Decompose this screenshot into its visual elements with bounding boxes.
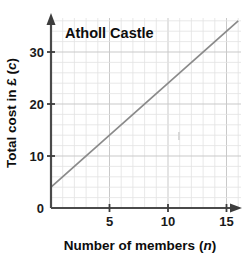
x-tick-label-15: 15: [219, 214, 233, 229]
x-axis-title-text: Number of members: [64, 238, 195, 253]
chart-canvas: 30 20 10 0 5 10 15 Atholl Castle Number …: [0, 0, 245, 258]
line-chart: 30 20 10 0 5 10 15 Atholl Castle Number …: [0, 0, 245, 258]
x-tick-label-5: 5: [106, 214, 113, 229]
y-tick-label-30: 30: [30, 45, 44, 60]
plot-background: [51, 18, 241, 208]
chart-title: Atholl Castle: [65, 25, 154, 41]
y-tick-label-10: 10: [30, 149, 44, 164]
paper-artifact: [178, 132, 180, 140]
y-tick-label-20: 20: [30, 97, 44, 112]
y-tick-label-0: 0: [37, 201, 44, 216]
x-tick-label-10: 10: [161, 214, 175, 229]
x-axis-title: Number of members (n): [64, 238, 216, 253]
y-axis-title-text: Total cost in £: [4, 78, 19, 168]
y-axis-title: Total cost in £ (c): [4, 58, 19, 168]
x-axis-title-variable: n: [203, 238, 211, 253]
